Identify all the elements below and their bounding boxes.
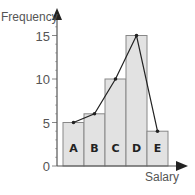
y-axis-label: Frequency (1, 10, 58, 24)
data-point (72, 121, 76, 125)
x-axis-label: Salary (145, 170, 179, 184)
category-label: C (111, 142, 119, 155)
y-tick-label: 5 (43, 116, 50, 131)
y-tick-label: 15 (36, 29, 50, 44)
y-tick-label: 0 (43, 159, 50, 174)
category-label: E (154, 142, 162, 155)
category-label: A (69, 142, 78, 155)
y-axis-ticks: 051015 (36, 27, 57, 174)
data-point (114, 77, 118, 81)
data-point (156, 129, 160, 133)
data-point (135, 34, 139, 38)
bar-b (84, 114, 105, 166)
category-label: D (132, 142, 141, 155)
data-point (93, 112, 97, 116)
histogram-chart: ABCDE 051015 Frequency Salary (0, 0, 195, 195)
y-tick-label: 10 (36, 72, 50, 87)
category-label: B (90, 142, 98, 155)
